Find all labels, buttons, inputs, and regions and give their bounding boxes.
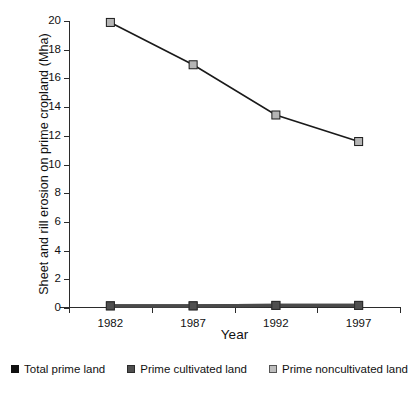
y-tick-label: 16 [39, 70, 61, 85]
legend-item-prime-cultivated-land[interactable]: Prime cultivated land [127, 363, 247, 375]
data-point-1997 [355, 138, 363, 146]
data-point-1982 [106, 302, 114, 310]
y-tick-label: 2 [39, 271, 61, 286]
data-point-1987 [189, 61, 197, 69]
y-tick-label: 12 [39, 128, 61, 143]
data-point-1982 [106, 18, 114, 26]
legend-label: Prime noncultivated land [282, 363, 408, 375]
data-point-1987 [189, 302, 197, 310]
y-tick-label: 10 [39, 157, 61, 172]
y-tick-label: 0 [39, 300, 61, 315]
legend-item-prime-noncultivated-land[interactable]: Prime noncultivated land [269, 363, 408, 375]
legend-swatch-icon [11, 365, 19, 373]
series-layer [69, 21, 400, 308]
legend-swatch-icon [127, 365, 135, 373]
y-tick-label: 14 [39, 99, 61, 114]
data-point-1992 [272, 111, 280, 119]
legend-swatch-icon [269, 365, 277, 373]
y-tick-label: 20 [39, 13, 61, 28]
x-axis-title: Year [69, 327, 400, 342]
series-line [110, 22, 358, 141]
legend-item-total-prime-land[interactable]: Total prime land [11, 363, 105, 375]
series-prime-noncultivated-land [106, 18, 362, 145]
chart-figure: Sheet and rill erosion on prime cropland… [0, 0, 419, 396]
chart-legend: Total prime landPrime cultivated landPri… [0, 363, 419, 375]
legend-label: Prime cultivated land [140, 363, 247, 375]
data-point-1992 [272, 301, 280, 309]
y-tick-label: 4 [39, 243, 61, 258]
x-tick-mark [400, 307, 401, 313]
y-tick-label: 8 [39, 185, 61, 200]
plot-area: 02468101214161820 1982198719921997 [69, 21, 400, 308]
data-point-1997 [355, 301, 363, 309]
y-tick-label: 18 [39, 42, 61, 57]
y-tick-label: 6 [39, 214, 61, 229]
legend-label: Total prime land [24, 363, 105, 375]
